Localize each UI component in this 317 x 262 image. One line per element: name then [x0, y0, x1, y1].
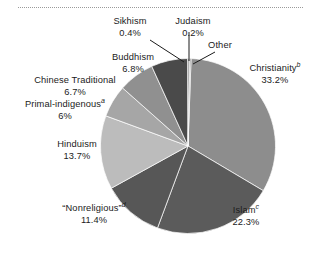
- slice-label-islam: Islamc 22.3%: [215, 205, 277, 228]
- slice-label-primal-indigenous: Primal-indigenousa 6%: [10, 99, 120, 122]
- slice-label-hinduism-name: Hinduism: [57, 139, 97, 149]
- slice-label-hinduism: Hinduism 13.7%: [44, 139, 110, 162]
- slice-label-primal-indigenous-name: Primal-indigenous: [25, 99, 101, 109]
- slice-label-nonreligious: “Nonreligious”d 11.4%: [50, 203, 138, 226]
- slice-label-chinese-traditional: Chinese Traditional 6.7%: [25, 75, 125, 98]
- slice-label-christianity: Christianityb 33.2%: [233, 63, 317, 86]
- slice-label-other-name: Other: [208, 40, 232, 50]
- slice-label-islam-name: Islam: [233, 205, 256, 215]
- slice-label-chinese-traditional-pct: 6.7%: [25, 87, 125, 99]
- slice-label-judaism-pct: 0.2%: [163, 28, 223, 40]
- slice-label-christianity-pct: 33.2%: [233, 75, 317, 87]
- slice-label-sikhism-name: Sikhism: [113, 16, 146, 26]
- footnote-marker-d: d: [122, 201, 126, 208]
- slice-label-buddhism-name: Buddhism: [112, 52, 154, 62]
- slice-label-sikhism-pct: 0.4%: [100, 28, 160, 40]
- footnote-marker-c: c: [256, 203, 260, 210]
- slice-label-judaism-name: Judaism: [175, 16, 210, 26]
- figure-pie-chart-world-religions: Sikhism 0.4% Judaism 0.2% Other Buddhism…: [0, 0, 317, 262]
- slice-label-buddhism-pct: 6.8%: [99, 64, 167, 76]
- slice-label-chinese-traditional-name: Chinese Traditional: [34, 75, 116, 85]
- dotted-separator-rule: [18, 7, 303, 8]
- slice-label-sikhism: Sikhism 0.4%: [100, 16, 160, 39]
- slice-label-buddhism: Buddhism 6.8%: [99, 52, 167, 75]
- slice-label-nonreligious-name: “Nonreligious”: [62, 203, 121, 213]
- slice-label-other: Other: [197, 40, 243, 52]
- footnote-marker-a: a: [101, 97, 105, 104]
- slice-label-islam-pct: 22.3%: [215, 217, 277, 229]
- slice-label-judaism: Judaism 0.2%: [163, 16, 223, 39]
- slice-label-hinduism-pct: 13.7%: [44, 151, 110, 163]
- footnote-marker-b: b: [297, 61, 301, 68]
- slice-label-christianity-name: Christianity: [249, 63, 296, 73]
- slice-label-nonreligious-pct: 11.4%: [50, 215, 138, 227]
- slice-label-primal-indigenous-pct: 6%: [10, 111, 120, 123]
